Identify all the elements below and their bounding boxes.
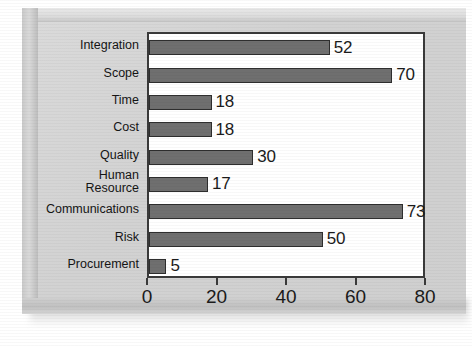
x-axis-tick-label: 80 [414, 286, 435, 308]
category-label-line: Quality [100, 149, 139, 162]
x-axis: 020406080 [147, 278, 425, 314]
bar [149, 259, 166, 274]
bars-layer: 52701818301773505 [149, 34, 423, 276]
bar-row: 18 [149, 122, 427, 137]
bar-value-label: 17 [212, 174, 231, 194]
x-axis-tick [355, 278, 357, 285]
category-label-line: Risk [115, 231, 139, 244]
category-label: Time [112, 94, 139, 107]
category-label-line: Communications [46, 203, 139, 216]
bar [149, 150, 253, 165]
bar [149, 68, 392, 83]
bar [149, 204, 403, 219]
x-axis-tick-label: 20 [206, 286, 227, 308]
x-axis-tick [146, 278, 148, 285]
bar-chart: IntegrationScopeTimeCostQualityHumanReso… [22, 8, 466, 314]
category-label: Cost [113, 121, 139, 134]
x-axis-tick-label: 0 [142, 286, 153, 308]
plot-area: 52701818301773505 [147, 32, 425, 278]
bar [149, 40, 330, 55]
x-axis-tick [216, 278, 218, 285]
category-label: HumanResource [86, 169, 140, 195]
bar [149, 232, 323, 247]
bar-row: 5 [149, 259, 427, 274]
bar-value-label: 50 [327, 229, 346, 249]
bar-row: 73 [149, 204, 427, 219]
x-axis-tick-label: 60 [345, 286, 366, 308]
x-axis-tick [285, 278, 287, 285]
category-label: Procurement [67, 258, 139, 271]
category-label: Communications [46, 203, 139, 216]
bar-row: 30 [149, 150, 427, 165]
bar-value-label: 70 [396, 65, 415, 85]
category-label-line: Resource [86, 182, 140, 195]
category-label-line: Cost [113, 121, 139, 134]
category-label-line: Time [112, 94, 139, 107]
bar-row: 52 [149, 40, 427, 55]
category-label: Risk [115, 231, 139, 244]
x-axis-tick [424, 278, 426, 285]
category-axis-labels: IntegrationScopeTimeCostQualityHumanReso… [22, 32, 143, 278]
category-label-line: Integration [80, 39, 139, 52]
category-label-line: Scope [104, 67, 139, 80]
bar [149, 122, 212, 137]
x-axis-tick-label: 40 [275, 286, 296, 308]
category-label: Integration [80, 39, 139, 52]
bar [149, 95, 212, 110]
bar-row: 70 [149, 68, 427, 83]
category-label-line: Procurement [67, 258, 139, 271]
category-label: Scope [104, 67, 139, 80]
bar-row: 50 [149, 232, 427, 247]
bar-value-label: 18 [216, 92, 235, 112]
bar-value-label: 18 [216, 119, 235, 139]
bar-value-label: 5 [170, 256, 179, 276]
bar-value-label: 52 [334, 37, 353, 57]
bar-value-label: 30 [257, 147, 276, 167]
bar-row: 18 [149, 95, 427, 110]
chart-scene: IntegrationScopeTimeCostQualityHumanReso… [0, 0, 472, 346]
bar [149, 177, 208, 192]
bar-row: 17 [149, 177, 427, 192]
bar-value-label: 73 [407, 201, 426, 221]
category-label: Quality [100, 149, 139, 162]
